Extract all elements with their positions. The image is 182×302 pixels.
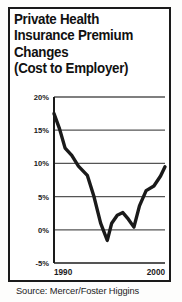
chart-title-line-4: (Cost to Employer) <box>14 60 157 76</box>
y-axis-tick-label: 5% <box>38 193 49 202</box>
chart-title-line-3: Changes <box>14 44 157 60</box>
y-axis-tick-label: 10% <box>34 159 49 168</box>
y-axis-tick-label: 0% <box>38 226 49 235</box>
chart-title: Private Health Insurance Premium Changes… <box>14 11 157 77</box>
y-axis-tick-label: 15% <box>34 126 49 135</box>
line-chart-svg: 20%15%10%5%0%-5% 19902000 <box>8 88 173 278</box>
x-axis-tick-label: 1990 <box>54 268 73 277</box>
y-axis-labels-group: 20%15%10%5%0%-5% <box>34 93 49 268</box>
chart-source-note: Source: Mercer/Foster Higgins <box>16 286 139 296</box>
y-axis-tick-label: 20% <box>34 93 49 102</box>
chart-title-line-1: Private Health <box>14 11 157 27</box>
y-axis-tick-label: -5% <box>35 259 49 268</box>
chart-figure: Private Health Insurance Premium Changes… <box>0 0 182 302</box>
chart-plot-area: 20%15%10%5%0%-5% 19902000 <box>8 88 173 278</box>
x-axis-tick-label: 2000 <box>147 268 166 277</box>
data-series-line <box>54 114 165 241</box>
chart-title-line-2: Insurance Premium <box>14 27 157 43</box>
x-axis-labels-group: 19902000 <box>54 268 165 277</box>
